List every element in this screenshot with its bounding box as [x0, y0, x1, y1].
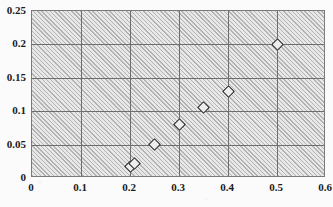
x-axis-tick-label: 0.2: [109, 182, 149, 193]
x-axis-tick-label: 0.5: [256, 182, 296, 193]
scatter-chart: 00.050.10.150.20.25 00.10.20.30.40.50.6: [0, 0, 333, 207]
x-axis-tick-label: 0.3: [158, 182, 198, 193]
x-axis-tick-label: 0: [11, 182, 51, 193]
x-axis-tick-label: 0.4: [207, 182, 247, 193]
x-axis-tick-labels: 00.10.20.30.40.50.6: [0, 0, 333, 207]
x-axis-tick-label: 0.6: [305, 182, 333, 193]
x-axis-tick-label: 0.1: [60, 182, 100, 193]
